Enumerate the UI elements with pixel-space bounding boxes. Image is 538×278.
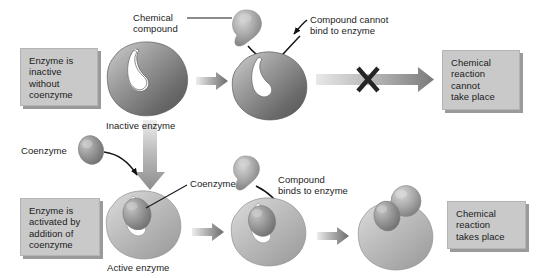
coenzyme-blob-free [75,133,107,168]
callout-line: takes place [456,231,518,242]
callout-line: inactive [29,66,90,77]
label-compound-binds: Compound binds to enzyme [278,174,348,197]
callout-reaction-cannot-take-place: Chemical reaction cannot take place [442,50,520,110]
inactive-enzyme-shape-2 [232,52,307,120]
callout-line: reaction [451,68,512,79]
chemical-compound-blob-bottom [234,156,260,190]
callout-line: reaction [456,219,518,230]
callout-line: activated by [29,216,92,227]
diagram-canvas: Enzyme is inactive without coenzyme Chem… [0,0,538,278]
process-arrow-top-1 [196,72,228,90]
label-coenzyme-bound: Coenzyme [190,178,236,189]
callout-reaction-takes-place: Chemical reaction takes place [447,201,526,249]
callout-line: addition of [29,228,92,239]
label-line: bind to enzyme [310,25,388,36]
active-enzyme-with-coenzyme [231,198,306,266]
chemical-compound-blob [233,10,262,46]
caption-text: Inactive enzyme [106,120,175,131]
callout-line: cannot [451,80,512,91]
label-line: compound [133,23,178,34]
callout-enzyme-activated: Enzyme is activated by addition of coenz… [20,198,100,256]
inactive-enzyme-shape-1 [107,42,187,116]
process-arrow-bottom-1 [192,223,224,241]
callout-line: Enzyme is [29,205,92,216]
callout-line: coenzyme [29,239,92,250]
caption-text: Active enzyme [107,262,169,273]
cannot-bind-pointer-arrow [294,20,307,34]
callout-enzyme-inactive: Enzyme is inactive without coenzyme [20,48,98,106]
caption-inactive-enzyme: Inactive enzyme [106,120,175,131]
label-line: binds to enzyme [278,185,348,196]
callout-line: Chemical [456,208,518,219]
blocked-process-arrow [316,67,434,92]
callout-line: Enzyme is [29,55,90,66]
label-coenzyme-free: Coenzyme [21,145,67,156]
label-line: Compound cannot [310,14,388,25]
process-arrow-bottom-2 [317,227,349,245]
active-enzyme-shape [106,191,181,259]
callout-line: take place [451,91,512,102]
label-chemical-compound: Chemical compound [133,12,178,35]
label-line: Chemical [133,12,178,23]
label-line: Compound [278,174,348,185]
label-line: Coenzyme [21,145,67,156]
callout-line: without [29,78,90,89]
caption-active-enzyme: Active enzyme [107,262,169,273]
enzyme-substrate-complex [358,186,433,270]
label-compound-cannot-bind: Compound cannot bind to enzyme [310,14,388,37]
callout-line: Chemical [451,57,512,68]
label-line: Coenzyme [190,178,236,189]
callout-line: coenzyme [29,89,90,100]
coenzyme-approach-curve [104,152,137,175]
